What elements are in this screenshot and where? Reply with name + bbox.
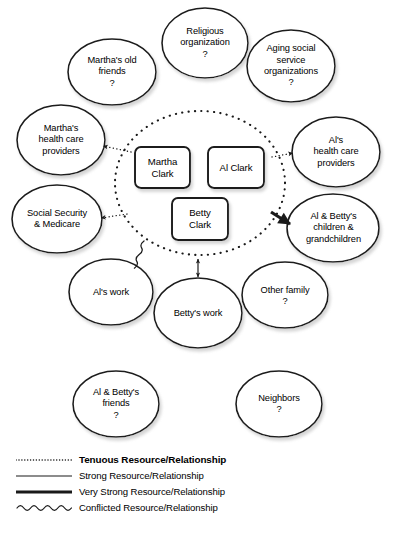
node-neighbors [236,371,322,437]
legend-label: Conflicted Resource/Relationship [79,502,218,514]
connector-tenuous-social-security-medicare [101,214,127,218]
legend-swatch-thick-line [16,484,72,500]
connector-very-strong-al-bettys-children-grandchildren [271,212,290,224]
connector-tenuous-als-health-care-providers [272,153,293,157]
node-marthas-old-friends [68,39,156,105]
legend-label: Tenuous Resource/Relationship [79,454,226,466]
member-box-martha-clark [135,147,190,188]
legend-label: Very Strong Resource/Relationship [79,486,225,498]
legend-label: Strong Resource/Relationship [79,470,204,482]
node-al-bettys-children-grandchildren [287,194,379,262]
node-religious-organization [162,8,248,78]
legend-item-strong: Strong Resource/Relationship [16,468,346,484]
node-aging-social-service-organizations [247,30,335,102]
legend-swatch-thin-line [16,468,72,484]
legend-item-tenuous: Tenuous Resource/Relationship [16,452,346,468]
connector-conflicted-als-work [134,241,144,268]
relationship-legend: Tenuous Resource/Relationship Strong Res… [16,452,346,516]
node-bettys-work [154,278,242,348]
legend-swatch-dotted-line [16,452,72,468]
legend-item-conflicted: Conflicted Resource/Relationship [16,500,346,516]
legend-swatch-wavy-line [16,500,72,516]
node-social-security-medicare [12,185,102,253]
node-other-family [242,262,328,328]
member-box-al-clark [208,147,264,188]
node-als-health-care-providers [292,117,380,187]
node-al-bettys-friends [73,371,159,437]
member-box-betty-clark [172,198,228,240]
node-als-work [69,259,153,325]
ecomap-diagram: Martha's old friends ? Religious organiz… [0,0,395,541]
node-marthas-health-care-providers [17,105,105,175]
legend-item-very-strong: Very Strong Resource/Relationship [16,484,346,500]
connector-tenuous-marthas-health-care-providers [103,146,131,152]
